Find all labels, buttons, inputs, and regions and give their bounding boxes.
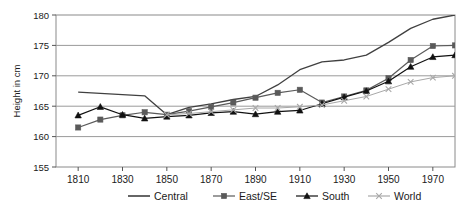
- chart-canvas: 1551601651701751801810183018501870189019…: [0, 0, 462, 214]
- marker-square: [297, 87, 302, 92]
- marker-square: [452, 43, 457, 48]
- x-tick-label-1910: 1910: [289, 174, 312, 185]
- x-tick-label-1970: 1970: [422, 174, 445, 185]
- legend-label-2: South: [322, 190, 350, 202]
- y-tick-label-160: 160: [33, 131, 49, 142]
- legend-label-3: World: [394, 190, 421, 202]
- legend-label-1: East/SE: [239, 190, 277, 202]
- y-tick-label-175: 175: [33, 40, 49, 51]
- x-tick-label-1830: 1830: [111, 174, 134, 185]
- y-axis-title: Height in cm: [11, 65, 22, 118]
- legend-label-0: Central: [154, 190, 188, 202]
- y-tick-label-155: 155: [33, 162, 49, 173]
- marker-square: [408, 57, 413, 62]
- x-tick-label-1950: 1950: [377, 174, 400, 185]
- marker-square: [76, 125, 81, 130]
- marker-square: [98, 117, 103, 122]
- marker-square: [209, 104, 214, 109]
- x-tick-label-1850: 1850: [156, 174, 179, 185]
- chart-legend: CentralEast/SESouthWorld: [128, 190, 421, 202]
- y-tick-label-180: 180: [33, 10, 49, 21]
- x-tick-label-1810: 1810: [67, 174, 90, 185]
- marker-square: [275, 90, 280, 95]
- x-tick-label-1870: 1870: [200, 174, 223, 185]
- marker-square: [430, 43, 435, 48]
- marker-square: [231, 100, 236, 105]
- marker-square: [142, 110, 147, 115]
- marker-square: [253, 95, 258, 100]
- height-trend-line-chart: 1551601651701751801810183018501870189019…: [0, 0, 462, 214]
- x-tick-label-1890: 1890: [244, 174, 267, 185]
- marker-square: [221, 193, 226, 198]
- x-tick-label-1930: 1930: [333, 174, 356, 185]
- y-tick-label-165: 165: [33, 101, 49, 112]
- y-tick-label-170: 170: [33, 70, 49, 81]
